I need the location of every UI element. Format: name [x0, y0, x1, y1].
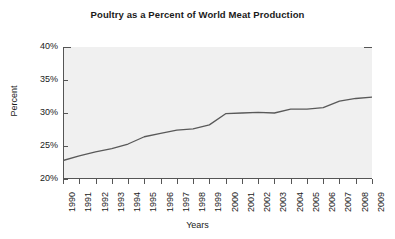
x-tick-mark — [112, 179, 113, 184]
x-tick-mark — [161, 179, 162, 184]
x-tick-mark — [274, 179, 275, 184]
x-tick-label: 1995 — [148, 192, 158, 212]
x-tick-label: 1997 — [181, 192, 191, 212]
x-tick-mark — [193, 179, 194, 184]
x-tick-mark — [63, 179, 64, 184]
x-tick-mark — [79, 179, 80, 184]
x-tick-label: 1992 — [100, 192, 110, 212]
chart-container: Poultry as a Percent of World Meat Produ… — [0, 0, 395, 239]
y-tick-label: 35% — [18, 74, 58, 84]
chart-title: Poultry as a Percent of World Meat Produ… — [0, 9, 395, 20]
y-tick-label: 20% — [18, 173, 58, 183]
x-tick-label: 2008 — [360, 192, 370, 212]
x-tick-mark — [209, 179, 210, 184]
x-tick-label: 1994 — [132, 192, 142, 212]
x-tick-mark — [307, 179, 308, 184]
x-tick-label: 1991 — [83, 192, 93, 212]
x-tick-mark — [96, 179, 97, 184]
x-tick-mark — [144, 179, 145, 184]
x-tick-label: 2006 — [327, 192, 337, 212]
x-tick-label: 2000 — [230, 192, 240, 212]
x-tick-label: 2003 — [278, 192, 288, 212]
x-tick-label: 1996 — [165, 192, 175, 212]
y-tick-label: 30% — [18, 107, 58, 117]
x-tick-mark — [242, 179, 243, 184]
x-tick-mark — [356, 179, 357, 184]
x-tick-mark — [258, 179, 259, 184]
x-tick-label: 2009 — [376, 192, 386, 212]
x-tick-mark — [128, 179, 129, 184]
x-tick-label: 1999 — [213, 192, 223, 212]
x-axis-label: Years — [0, 220, 395, 230]
y-tick-label: 25% — [18, 140, 58, 150]
x-tick-mark — [372, 179, 373, 184]
x-tick-mark — [339, 179, 340, 184]
x-tick-label: 2001 — [246, 192, 256, 212]
data-series-line — [63, 47, 372, 179]
x-tick-mark — [323, 179, 324, 184]
x-tick-label: 2002 — [262, 192, 272, 212]
x-tick-mark — [226, 179, 227, 184]
x-tick-label: 2004 — [295, 192, 305, 212]
x-tick-mark — [291, 179, 292, 184]
x-tick-label: 1990 — [67, 192, 77, 212]
x-tick-label: 2007 — [343, 192, 353, 212]
x-tick-label: 1998 — [197, 192, 207, 212]
x-tick-mark — [177, 179, 178, 184]
x-tick-label: 1993 — [116, 192, 126, 212]
x-tick-label: 2005 — [311, 192, 321, 212]
y-tick-label: 40% — [18, 41, 58, 51]
